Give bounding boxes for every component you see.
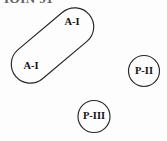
diagram-svg: A-I A-I P-II P-III [0, 0, 167, 141]
circle-shape-p2: P-II [129, 56, 160, 87]
stadium-shape-a1 [4, 0, 102, 91]
diagram-canvas: IOIN 91 A-I A-I P-II P-III [0, 0, 167, 141]
stadium-label-upper: A-I [64, 16, 79, 27]
stadium-outline [4, 0, 102, 91]
stadium-label-lower: A-I [23, 60, 38, 71]
circle-label-p3: P-III [83, 110, 105, 121]
circle-label-p2: P-II [135, 65, 153, 76]
circle-shape-p3: P-III [78, 101, 110, 133]
